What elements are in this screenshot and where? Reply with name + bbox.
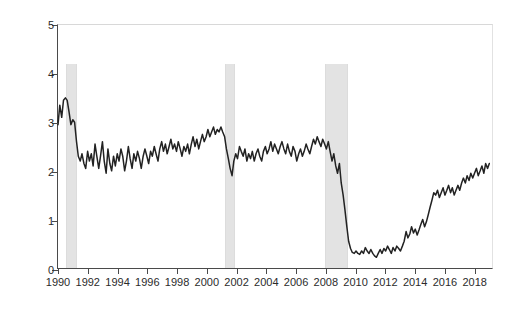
x-axis-tick-label: 1998 bbox=[165, 276, 189, 288]
x-axis-tick bbox=[445, 268, 446, 274]
x-axis-tick-label: 2018 bbox=[462, 276, 486, 288]
y-axis-tick-label: 3 bbox=[48, 117, 54, 129]
x-axis-tick-label: 2010 bbox=[343, 276, 367, 288]
series-line bbox=[58, 98, 489, 257]
chart-figure: 가계의 기대소득 증가율 (%, 중위값, 3개월 이동평균) 01234519… bbox=[0, 0, 506, 309]
x-axis-tick-label: 1992 bbox=[76, 276, 100, 288]
x-axis-tick bbox=[415, 268, 416, 274]
plot-inner bbox=[58, 25, 492, 268]
x-axis-tick bbox=[356, 268, 357, 274]
x-axis-tick bbox=[88, 268, 89, 274]
y-axis-title: 가계의 기대소득 증가율 (%, 중위값, 3개월 이동평균) bbox=[0, 0, 30, 54]
y-axis-tick-label: 5 bbox=[48, 19, 54, 31]
x-axis-tick bbox=[147, 268, 148, 274]
x-axis-tick bbox=[385, 268, 386, 274]
x-axis-tick bbox=[237, 268, 238, 274]
y-axis-tick-label: 2 bbox=[48, 166, 54, 178]
x-axis-tick-label: 2014 bbox=[403, 276, 427, 288]
x-axis-tick-label: 2006 bbox=[284, 276, 308, 288]
x-axis-tick-label: 2004 bbox=[254, 276, 278, 288]
x-axis-tick-label: 2002 bbox=[224, 276, 248, 288]
y-axis-tick-label: 4 bbox=[48, 68, 54, 80]
x-axis-tick bbox=[296, 268, 297, 274]
x-axis-tick bbox=[266, 268, 267, 274]
x-axis-tick bbox=[207, 268, 208, 274]
plot-area: 0123451990199219941996199820002002200420… bbox=[57, 24, 493, 269]
x-axis-tick bbox=[118, 268, 119, 274]
x-axis-tick bbox=[177, 268, 178, 274]
x-axis-tick bbox=[326, 268, 327, 274]
x-axis-tick-label: 2000 bbox=[195, 276, 219, 288]
x-axis-tick bbox=[475, 268, 476, 274]
x-axis-tick-label: 2008 bbox=[314, 276, 338, 288]
x-axis-tick-label: 2012 bbox=[373, 276, 397, 288]
x-axis-tick-label: 1996 bbox=[135, 276, 159, 288]
x-axis-tick-label: 1990 bbox=[46, 276, 70, 288]
y-axis-tick-label: 0 bbox=[48, 264, 54, 276]
x-axis-tick bbox=[58, 268, 59, 274]
series-line-chart bbox=[58, 25, 492, 268]
x-axis-tick-label: 1994 bbox=[105, 276, 129, 288]
y-axis-tick-label: 1 bbox=[48, 215, 54, 227]
x-axis-tick-label: 2016 bbox=[433, 276, 457, 288]
